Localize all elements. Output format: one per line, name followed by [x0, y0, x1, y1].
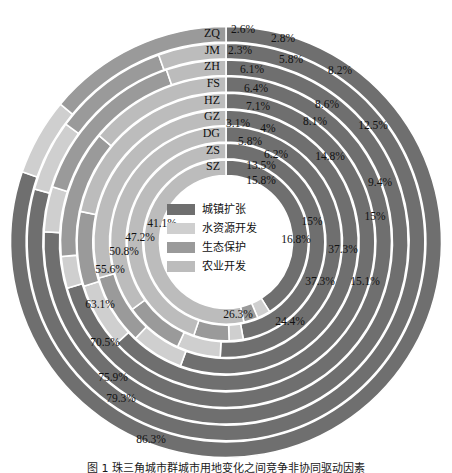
legend-label-urban: 城镇扩张 [202, 204, 246, 215]
legend-swatch-water [167, 223, 195, 234]
segment-percent-label: 6.4% [244, 82, 268, 94]
ring-city-label: DG [203, 126, 221, 140]
segment-percent-label: 8.2% [328, 64, 352, 76]
ring-city-label: GZ [204, 109, 220, 123]
segment-percent-label: 75.9% [98, 371, 128, 383]
segment-percent-label: 8.1% [303, 115, 327, 127]
ring-city-label: SZ [206, 159, 220, 173]
ring-city-label: HZ [204, 93, 220, 107]
ring-city-label: ZQ [204, 26, 220, 40]
legend-swatch-ecology [167, 242, 195, 253]
legend-swatch-urban [167, 204, 195, 215]
segment-percent-label: 37.3% [305, 275, 335, 287]
segment-percent-label: 55.6% [95, 263, 125, 275]
segment-percent-label: 14.8% [315, 150, 345, 162]
legend-swatch-agriculture [167, 261, 195, 272]
segment-percent-label: 2.3% [228, 44, 252, 56]
legend-item-water: 水资源开发 [167, 220, 289, 236]
segment-percent-label: 15% [301, 215, 323, 227]
segment-percent-label: 7.1% [246, 100, 270, 112]
ring-segment [229, 324, 244, 341]
segment-percent-label: 86.3% [136, 433, 166, 445]
segment-percent-label: 2.6% [231, 23, 255, 35]
segment-percent-label: 37.3% [328, 243, 358, 255]
segment-percent-label: 8.6% [315, 98, 339, 110]
legend-item-urban: 城镇扩张 [167, 201, 289, 217]
segment-percent-label: 2.8% [271, 32, 295, 44]
segment-percent-label: 6.1% [240, 63, 264, 75]
ring-city-label: JM [205, 43, 221, 57]
ring-city-label: FS [207, 76, 220, 90]
segment-percent-label: 24.4% [275, 315, 305, 327]
ring-city-label: ZH [204, 59, 220, 73]
segment-percent-label: 13.5% [246, 159, 276, 171]
multi-ring-donut-chart: SZZSDGGZHZFSZHJMZQ2.6%2.8%2.3%5.8%6.1%8.… [0, 0, 452, 473]
segment-percent-label: 79.3% [106, 392, 136, 404]
legend-item-ecology: 生态保护 [167, 240, 289, 256]
segment-percent-label: 12.5% [358, 119, 388, 131]
segment-percent-label: 15% [364, 210, 386, 222]
segment-percent-label: 47.2% [125, 231, 155, 243]
segment-percent-label: 5.8% [238, 135, 262, 147]
segment-percent-label: 9.4% [368, 176, 392, 188]
figure-caption: 图 1 珠三角城市群城市用地变化之间竞争非协同驱动因素 [0, 459, 452, 473]
segment-percent-label: 70.5% [90, 336, 120, 348]
segment-percent-label: 63.1% [85, 298, 115, 310]
segment-percent-label: 5.8% [279, 53, 303, 65]
legend-label-agriculture: 农业开发 [202, 261, 246, 272]
segment-percent-label: 3.1% [226, 117, 250, 129]
segment-percent-label: 4% [260, 122, 276, 134]
legend-item-agriculture: 农业开发 [167, 259, 289, 275]
legend-label-ecology: 生态保护 [202, 242, 246, 253]
segment-percent-label: 26.3% [223, 308, 253, 320]
ring-city-label: ZS [206, 143, 220, 157]
chart-legend: 城镇扩张 水资源开发 生态保护 农业开发 [167, 201, 289, 275]
legend-label-water: 水资源开发 [202, 223, 257, 234]
segment-percent-label: 50.8% [109, 245, 139, 257]
segment-percent-label: 15.1% [350, 275, 380, 287]
segment-percent-label: 15.8% [246, 174, 276, 186]
